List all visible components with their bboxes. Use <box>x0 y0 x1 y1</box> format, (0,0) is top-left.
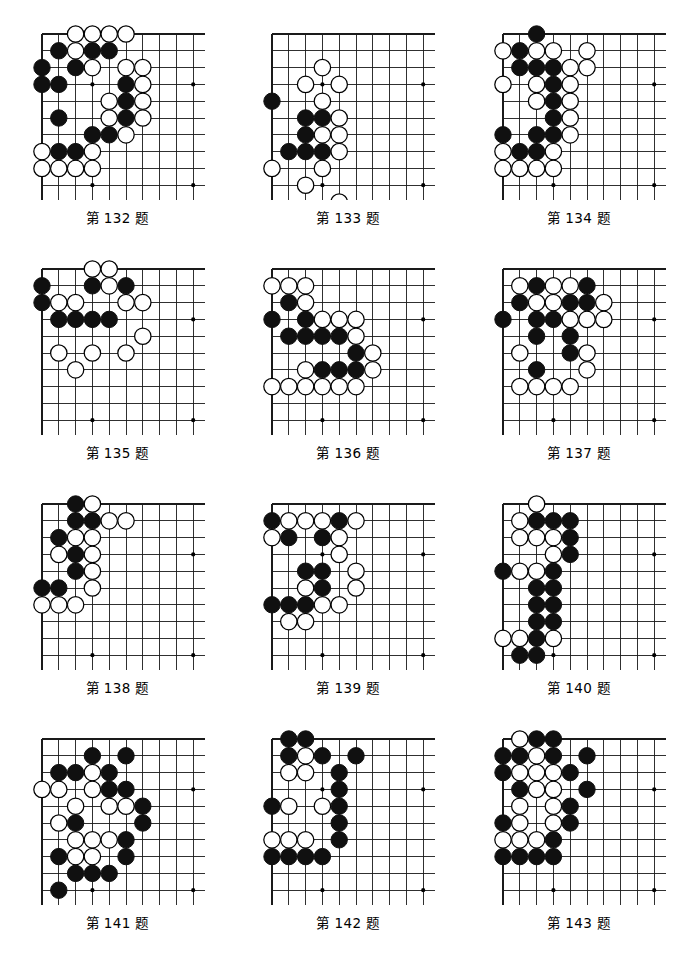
black-stone[interactable] <box>50 848 66 864</box>
white-stone[interactable] <box>134 59 150 75</box>
black-stone[interactable] <box>495 764 511 780</box>
black-stone[interactable] <box>529 630 545 646</box>
black-stone[interactable] <box>562 815 578 831</box>
white-stone[interactable] <box>495 630 511 646</box>
black-stone[interactable] <box>512 43 528 59</box>
black-stone[interactable] <box>529 597 545 613</box>
black-stone[interactable] <box>315 143 331 159</box>
black-stone[interactable] <box>34 76 50 92</box>
black-stone[interactable] <box>545 748 561 764</box>
white-stone[interactable] <box>298 832 314 848</box>
black-stone[interactable] <box>348 748 364 764</box>
white-stone[interactable] <box>315 160 331 176</box>
black-stone[interactable] <box>529 59 545 75</box>
black-stone[interactable] <box>84 311 100 327</box>
black-stone[interactable] <box>315 110 331 126</box>
white-stone[interactable] <box>84 848 100 864</box>
black-stone[interactable] <box>562 546 578 562</box>
white-stone[interactable] <box>67 832 83 848</box>
white-stone[interactable] <box>50 160 66 176</box>
white-stone[interactable] <box>315 513 331 529</box>
black-stone[interactable] <box>67 59 83 75</box>
go-board[interactable] <box>491 727 666 905</box>
black-stone[interactable] <box>545 832 561 848</box>
black-stone[interactable] <box>67 815 83 831</box>
black-stone[interactable] <box>545 93 561 109</box>
white-stone[interactable] <box>331 76 347 92</box>
white-stone[interactable] <box>67 26 83 42</box>
white-stone[interactable] <box>529 832 545 848</box>
white-stone[interactable] <box>545 529 561 545</box>
white-stone[interactable] <box>315 311 331 327</box>
black-stone[interactable] <box>545 513 561 529</box>
black-stone[interactable] <box>545 311 561 327</box>
white-stone[interactable] <box>84 563 100 579</box>
white-stone[interactable] <box>101 798 117 814</box>
white-stone[interactable] <box>84 832 100 848</box>
white-stone[interactable] <box>101 513 117 529</box>
white-stone[interactable] <box>298 613 314 629</box>
black-stone[interactable] <box>118 110 134 126</box>
go-board[interactable] <box>260 257 435 435</box>
white-stone[interactable] <box>67 294 83 310</box>
white-stone[interactable] <box>118 59 134 75</box>
white-stone[interactable] <box>315 59 331 75</box>
white-stone[interactable] <box>365 362 381 378</box>
white-stone[interactable] <box>512 832 528 848</box>
white-stone[interactable] <box>298 294 314 310</box>
white-stone[interactable] <box>529 529 545 545</box>
black-stone[interactable] <box>50 580 66 596</box>
black-stone[interactable] <box>315 328 331 344</box>
white-stone[interactable] <box>281 832 297 848</box>
white-stone[interactable] <box>348 563 364 579</box>
white-stone[interactable] <box>529 764 545 780</box>
white-stone[interactable] <box>596 311 612 327</box>
black-stone[interactable] <box>101 865 117 881</box>
black-stone[interactable] <box>50 311 66 327</box>
black-stone[interactable] <box>315 748 331 764</box>
white-stone[interactable] <box>118 294 134 310</box>
black-stone[interactable] <box>529 311 545 327</box>
white-stone[interactable] <box>529 748 545 764</box>
white-stone[interactable] <box>298 580 314 596</box>
black-stone[interactable] <box>529 362 545 378</box>
go-board[interactable] <box>260 492 435 670</box>
white-stone[interactable] <box>67 597 83 613</box>
go-board[interactable] <box>491 22 666 200</box>
white-stone[interactable] <box>34 143 50 159</box>
black-stone[interactable] <box>331 764 347 780</box>
go-board[interactable] <box>491 492 666 670</box>
black-stone[interactable] <box>281 731 297 747</box>
white-stone[interactable] <box>84 59 100 75</box>
black-stone[interactable] <box>118 781 134 797</box>
black-stone[interactable] <box>101 311 117 327</box>
white-stone[interactable] <box>579 311 595 327</box>
white-stone[interactable] <box>50 345 66 361</box>
go-board[interactable] <box>30 22 205 200</box>
white-stone[interactable] <box>264 529 280 545</box>
black-stone[interactable] <box>67 546 83 562</box>
black-stone[interactable] <box>562 345 578 361</box>
black-stone[interactable] <box>529 26 545 42</box>
white-stone[interactable] <box>562 311 578 327</box>
black-stone[interactable] <box>84 748 100 764</box>
white-stone[interactable] <box>545 630 561 646</box>
black-stone[interactable] <box>67 563 83 579</box>
black-stone[interactable] <box>84 865 100 881</box>
black-stone[interactable] <box>67 143 83 159</box>
white-stone[interactable] <box>348 580 364 596</box>
white-stone[interactable] <box>67 160 83 176</box>
white-stone[interactable] <box>264 278 280 294</box>
black-stone[interactable] <box>134 815 150 831</box>
black-stone[interactable] <box>512 848 528 864</box>
black-stone[interactable] <box>315 563 331 579</box>
black-stone[interactable] <box>315 580 331 596</box>
white-stone[interactable] <box>264 378 280 394</box>
white-stone[interactable] <box>315 127 331 143</box>
white-stone[interactable] <box>512 630 528 646</box>
white-stone[interactable] <box>331 378 347 394</box>
white-stone[interactable] <box>331 311 347 327</box>
white-stone[interactable] <box>545 43 561 59</box>
black-stone[interactable] <box>529 848 545 864</box>
black-stone[interactable] <box>315 848 331 864</box>
